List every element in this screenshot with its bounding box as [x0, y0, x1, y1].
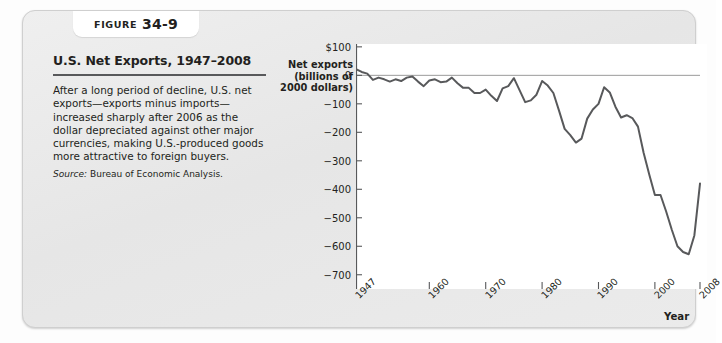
source-text: Bureau of Economic Analysis.	[90, 169, 223, 179]
figure-text-column: U.S. Net Exports, 1947–2008 After a long…	[53, 53, 268, 179]
y-tick-label-5: −400	[324, 184, 351, 195]
y-tick-label-0: $100	[326, 41, 351, 52]
net-exports-line-chart	[356, 44, 707, 289]
figure-source: Source: Bureau of Economic Analysis.	[53, 169, 268, 179]
x-axis-tick-labels: 1947196019701980199020002008	[356, 289, 707, 329]
data-series-net-exports	[356, 69, 700, 254]
source-label: Source:	[53, 169, 87, 179]
y-tick-label-7: −600	[324, 241, 351, 252]
y-tick-label-6: −500	[324, 212, 351, 223]
figure-panel: Figure 34-9 U.S. Net Exports, 1947–2008 …	[22, 10, 696, 328]
figure-title: U.S. Net Exports, 1947–2008	[53, 53, 268, 68]
figure-caption: After a long period of decline, U.S. net…	[53, 84, 266, 164]
plot-area	[356, 44, 707, 289]
x-axis-title: Year	[664, 311, 689, 322]
y-tick-label-2: −100	[324, 98, 351, 109]
y-tick-label-4: −300	[324, 155, 351, 166]
title-divider	[53, 74, 266, 76]
y-axis-tick-labels: $1000−100−200−300−400−500−600−700	[293, 44, 351, 289]
figure-badge-word: Figure	[94, 19, 137, 30]
figure-badge: Figure 34-9	[73, 11, 199, 37]
y-tick-label-1: 0	[345, 70, 351, 81]
y-tick-label-8: −700	[324, 269, 351, 280]
figure-badge-number: 34-9	[142, 16, 178, 32]
y-tick-label-3: −200	[324, 127, 351, 138]
